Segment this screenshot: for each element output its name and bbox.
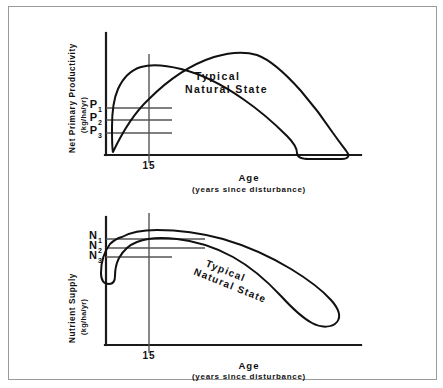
y-axis-units-top: (kg/ha/yr) xyxy=(79,96,88,133)
envelope-curve-top xyxy=(112,53,348,159)
marker-p2-subscript: 2 xyxy=(98,119,102,126)
annotation-line1-top: Typical xyxy=(195,70,240,82)
annotation-top: Typical Natural State xyxy=(185,70,268,95)
chart-svg-bottom: Nutrient Supply (kg/ha/yr) Typical Natur… xyxy=(9,197,438,381)
marker-p3-subscript: 3 xyxy=(98,132,102,139)
annotation-bottom: Typical Natural State xyxy=(192,255,272,305)
marker-n3-label: N xyxy=(89,249,97,261)
y-axis-title-bottom: Nutrient Supply xyxy=(68,273,77,343)
marker-p1-subscript: 1 xyxy=(98,106,102,113)
chart-svg-top: Net Primary Productivity (kg/ha/yr) Typi… xyxy=(9,7,438,197)
y-axis-label-bottom: Nutrient Supply (kg/ha/yr) xyxy=(68,273,88,343)
x-axis-subtitle-top: (years since disturbance) xyxy=(192,185,306,194)
y-axis-units-bottom: (kg/ha/yr) xyxy=(79,298,88,335)
marker-n2-subscript: 2 xyxy=(98,247,102,254)
marker-p3-label: P xyxy=(90,124,97,136)
x-axis-title-bottom: Age xyxy=(238,360,259,371)
marker-p3: P 3 xyxy=(90,124,102,139)
figure-frame: Net Primary Productivity (kg/ha/yr) Typi… xyxy=(8,6,437,380)
x-axis-tick-15-top: 15 xyxy=(142,160,155,171)
marker-p1-label: P xyxy=(90,98,97,110)
y-axis-label-top: Net Primary Productivity (kg/ha/yr) xyxy=(68,43,88,153)
y-axis-title-top: Net Primary Productivity xyxy=(68,43,77,153)
marker-n1-subscript: 1 xyxy=(98,237,102,244)
annotation-line2-top: Natural State xyxy=(185,83,268,95)
marker-n3-subscript: 3 xyxy=(98,257,102,264)
x-axis-title-top: Age xyxy=(238,172,259,183)
chart-panel-net-primary-productivity: Net Primary Productivity (kg/ha/yr) Typi… xyxy=(9,7,438,197)
x-axis-tick-15-bottom: 15 xyxy=(142,350,155,361)
chart-panel-nutrient-supply: Nutrient Supply (kg/ha/yr) Typical Natur… xyxy=(9,197,438,381)
x-axis-subtitle-bottom: (years since disturbance) xyxy=(192,372,306,381)
marker-p2-label: P xyxy=(90,111,97,123)
